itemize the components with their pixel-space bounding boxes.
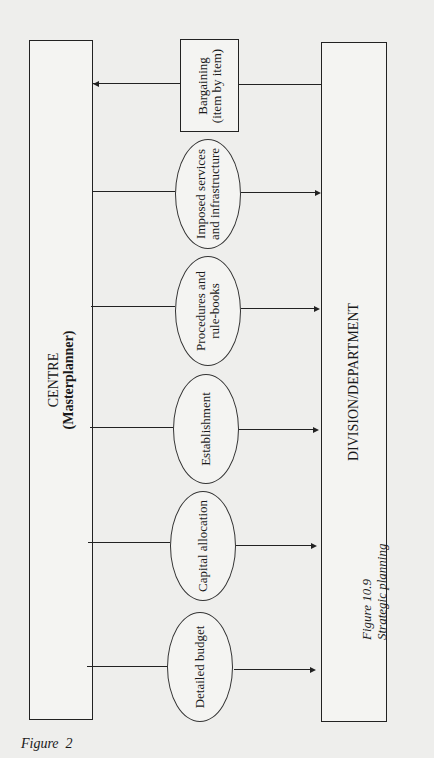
imposed-arrowhead xyxy=(315,190,321,196)
centre-subtitle: (Masterplanner) xyxy=(61,331,76,430)
establishment-arrowhead xyxy=(313,427,319,433)
imposed-line-left xyxy=(92,191,175,192)
establishment-line-left xyxy=(90,427,173,428)
bargaining-arrowhead xyxy=(93,81,99,87)
capital-node: Capital allocation xyxy=(170,491,236,601)
centre-title: CENTRE xyxy=(46,331,61,430)
procedures-line-left xyxy=(91,306,175,307)
bargaining-line-right xyxy=(239,84,322,85)
establishment-line-right xyxy=(239,429,313,430)
procedures-line-right xyxy=(241,308,314,309)
page-figure-label: Figure 2 xyxy=(21,736,73,752)
bargaining-line-left xyxy=(93,83,180,84)
procedures-label-line1: Procedures and xyxy=(194,271,208,351)
imposed-line-right xyxy=(241,192,315,193)
division-label: DIVISION/DEPARTMENT xyxy=(346,303,361,461)
procedures-arrowhead xyxy=(314,306,320,312)
imposed-label-line1: Imposed services xyxy=(194,148,208,240)
figure-number: Figure 10.9 xyxy=(360,520,375,640)
budget-arrowhead xyxy=(310,667,316,673)
capital-line-right xyxy=(236,545,311,546)
imposed-label-line2: and infrastructure xyxy=(208,148,222,240)
establishment-label: Establishment xyxy=(199,392,213,466)
procedures-node: Procedures and rule-books xyxy=(175,256,241,366)
centre-label: CENTRE (Masterplanner) xyxy=(46,331,77,430)
capital-label: Capital allocation xyxy=(196,500,210,592)
bargaining-node: Bargaining (item by item) xyxy=(180,39,239,132)
establishment-node: Establishment xyxy=(173,374,239,484)
budget-line-left xyxy=(87,666,167,667)
capital-arrowhead xyxy=(311,543,317,549)
capital-label-line1: Capital allocation xyxy=(196,500,210,592)
figure-title: Strategic planning xyxy=(375,520,390,640)
procedures-label: Procedures and rule-books xyxy=(194,271,223,351)
bargaining-label-line2: (item by item) xyxy=(210,48,224,122)
bargaining-label: Bargaining (item by item) xyxy=(195,48,224,122)
bargaining-label-line1: Bargaining xyxy=(195,48,209,122)
establishment-label-line1: Establishment xyxy=(199,392,213,466)
imposed-node: Imposed services and infrastructure xyxy=(175,139,241,249)
budget-line-right xyxy=(234,669,310,670)
budget-label: Detailed budget xyxy=(193,626,207,709)
capital-line-left xyxy=(88,542,170,543)
budget-node: Detailed budget xyxy=(167,612,233,722)
imposed-label: Imposed services and infrastructure xyxy=(194,148,223,240)
figure-caption: Figure 10.9 Strategic planning xyxy=(360,520,390,640)
budget-label-line1: Detailed budget xyxy=(193,626,207,709)
procedures-label-line2: rule-books xyxy=(208,271,222,351)
centre-box: CENTRE (Masterplanner) xyxy=(29,40,93,720)
